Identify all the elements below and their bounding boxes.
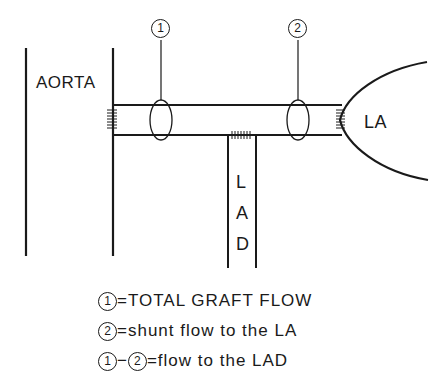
probe-1-marker: 1	[151, 18, 170, 38]
legend-text: =flow to the LAD	[147, 351, 288, 371]
legend-marker-2: 2	[98, 322, 117, 341]
lad-anastomosis-sutures	[232, 131, 250, 139]
legend-row-total-graft-flow: 1 =TOTAL GRAFT FLOW	[98, 286, 312, 316]
aorta-label: AORTA	[36, 74, 96, 91]
legend-marker-1: 1	[98, 352, 117, 371]
probe-2-marker: 2	[288, 18, 307, 38]
probe-1-number: 1	[151, 19, 170, 38]
aorta-anastomosis-sutures	[107, 110, 117, 128]
lad-label-a: A	[236, 204, 248, 222]
la-label: LA	[364, 113, 387, 131]
lad-label-l: L	[236, 173, 246, 191]
legend-text: =TOTAL GRAFT FLOW	[117, 291, 312, 311]
legend: 1 =TOTAL GRAFT FLOW 2 =shunt flow to the…	[98, 286, 312, 376]
legend-marker-1: 1	[98, 292, 117, 311]
la-anastomosis-sutures	[336, 110, 345, 128]
legend-row-lad-flow: 1 − 2 =flow to the LAD	[98, 346, 312, 376]
legend-text: =shunt flow to the LA	[117, 321, 297, 341]
legend-marker-2: 2	[128, 352, 147, 371]
legend-row-shunt-flow: 2 =shunt flow to the LA	[98, 316, 312, 346]
probe-2-number: 2	[288, 19, 307, 38]
legend-minus: −	[117, 351, 128, 371]
lad-label-d: D	[236, 235, 249, 253]
